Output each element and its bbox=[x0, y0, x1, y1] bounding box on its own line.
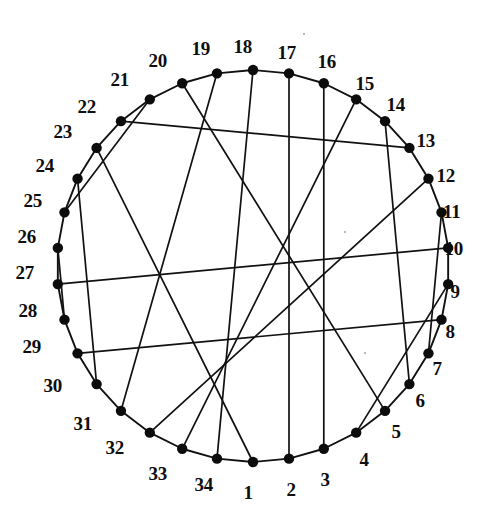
cycle-edge-16-17 bbox=[289, 73, 324, 83]
chord-edge-18-34 bbox=[217, 70, 253, 459]
vertex-dot-17 bbox=[284, 68, 294, 78]
cycle-edge-1-2 bbox=[253, 459, 289, 462]
vertex-dot-30 bbox=[91, 379, 101, 389]
vertex-label-30: 30 bbox=[44, 376, 63, 395]
vertex-dot-26 bbox=[53, 243, 63, 253]
vertex-dot-34 bbox=[212, 453, 222, 463]
cycle-edge-12-13 bbox=[409, 148, 428, 179]
cycle-edge-24-25 bbox=[64, 179, 77, 213]
scan-speck bbox=[364, 352, 366, 354]
graph-canvas bbox=[0, 0, 494, 519]
vertex-label-32: 32 bbox=[106, 438, 125, 457]
cycle-edge-30-31 bbox=[97, 384, 121, 411]
chord-edge-7-11 bbox=[428, 212, 441, 353]
chord-edge-15-33 bbox=[182, 99, 356, 448]
vertex-dot-2 bbox=[284, 453, 294, 463]
cycle-edge-34-1 bbox=[217, 459, 253, 462]
scan-speck bbox=[344, 231, 346, 233]
vertex-label-7: 7 bbox=[433, 359, 442, 378]
vertex-dot-4 bbox=[351, 427, 361, 437]
vertex-label-21: 21 bbox=[111, 70, 130, 89]
vertex-dot-14 bbox=[380, 116, 390, 126]
vertex-dot-16 bbox=[319, 78, 329, 88]
vertex-label-29: 29 bbox=[23, 337, 42, 356]
vertex-dot-13 bbox=[404, 143, 414, 153]
cycle-edge-3-4 bbox=[324, 433, 356, 449]
cycle-edge-13-14 bbox=[385, 121, 409, 148]
vertex-dot-6 bbox=[404, 379, 414, 389]
vertex-label-5: 5 bbox=[392, 422, 401, 441]
vertex-dot-20 bbox=[177, 78, 187, 88]
vertex-label-3: 3 bbox=[321, 470, 330, 489]
cycle-edge-32-33 bbox=[150, 433, 182, 449]
vertex-label-8: 8 bbox=[446, 322, 455, 341]
cycle-edge-25-26 bbox=[58, 212, 65, 248]
vertex-label-31: 31 bbox=[74, 414, 93, 433]
vertex-dot-25 bbox=[59, 207, 69, 217]
chord-edge-8-29 bbox=[78, 320, 442, 354]
vertex-dot-33 bbox=[177, 444, 187, 454]
vertex-label-20: 20 bbox=[149, 51, 168, 70]
vertex-dot-24 bbox=[72, 173, 82, 183]
vertex-label-23: 23 bbox=[54, 122, 73, 141]
chord-edge-13-22 bbox=[121, 121, 409, 148]
vertex-dot-1 bbox=[248, 457, 258, 467]
vertex-label-19: 19 bbox=[192, 39, 211, 58]
vertex-label-1: 1 bbox=[244, 483, 253, 502]
vertex-label-10: 10 bbox=[445, 239, 464, 258]
cycle-edge-31-32 bbox=[121, 411, 150, 433]
cycle-edge-17-18 bbox=[253, 70, 289, 73]
vertex-dot-3 bbox=[319, 444, 329, 454]
vertex-label-11: 11 bbox=[443, 202, 461, 221]
vertex-dot-31 bbox=[116, 406, 126, 416]
cycle-edge-22-23 bbox=[97, 121, 121, 148]
vertex-label-6: 6 bbox=[416, 391, 425, 410]
vertex-label-4: 4 bbox=[360, 450, 369, 469]
cycle-edge-2-3 bbox=[289, 449, 324, 459]
scan-speck bbox=[303, 33, 305, 35]
chord-edge-layer bbox=[58, 70, 448, 462]
vertex-label-15: 15 bbox=[356, 74, 375, 93]
graph-figure: 1234567891011121314151617181920212223242… bbox=[0, 0, 494, 519]
cycle-edge-28-29 bbox=[64, 320, 77, 354]
vertex-label-28: 28 bbox=[19, 301, 38, 320]
vertex-label-33: 33 bbox=[149, 464, 168, 483]
vertex-dot-15 bbox=[351, 94, 361, 104]
vertex-label-18: 18 bbox=[234, 37, 253, 56]
cycle-edge-5-6 bbox=[385, 384, 409, 411]
cycle-edge-33-34 bbox=[182, 449, 217, 459]
vertex-dot-12 bbox=[423, 173, 433, 183]
vertex-label-14: 14 bbox=[387, 95, 406, 114]
vertex-dot-27 bbox=[53, 279, 63, 289]
vertex-label-25: 25 bbox=[24, 191, 43, 210]
vertex-label-9: 9 bbox=[451, 282, 460, 301]
vertex-label-12: 12 bbox=[437, 166, 456, 185]
vertex-dot-23 bbox=[91, 143, 101, 153]
cycle-edge-19-20 bbox=[182, 73, 217, 83]
vertex-dot-32 bbox=[145, 427, 155, 437]
vertex-label-16: 16 bbox=[318, 52, 337, 71]
vertex-label-26: 26 bbox=[18, 227, 37, 246]
cycle-edge-20-21 bbox=[150, 83, 182, 99]
cycle-edge-15-16 bbox=[324, 83, 356, 99]
vertex-dot-19 bbox=[212, 68, 222, 78]
vertex-dot-21 bbox=[145, 94, 155, 104]
vertex-label-34: 34 bbox=[195, 475, 214, 494]
vertex-dot-18 bbox=[248, 65, 258, 75]
vertex-label-2: 2 bbox=[287, 480, 296, 499]
vertex-label-17: 17 bbox=[278, 43, 297, 62]
vertex-dot-29 bbox=[72, 348, 82, 358]
cycle-edge-6-7 bbox=[409, 353, 428, 384]
chord-edge-10-27 bbox=[58, 248, 448, 284]
vertex-label-27: 27 bbox=[16, 263, 35, 282]
vertex-label-22: 22 bbox=[78, 97, 97, 116]
vertex-dot-5 bbox=[380, 406, 390, 416]
vertex-dot-28 bbox=[59, 314, 69, 324]
vertex-label-24: 24 bbox=[36, 156, 55, 175]
vertex-dot-22 bbox=[116, 116, 126, 126]
vertex-label-13: 13 bbox=[417, 131, 436, 150]
cycle-edge-14-15 bbox=[356, 99, 385, 121]
vertex-dot-7 bbox=[423, 348, 433, 358]
cycle-edge-18-19 bbox=[217, 70, 253, 73]
cycle-edge-4-5 bbox=[356, 411, 385, 433]
